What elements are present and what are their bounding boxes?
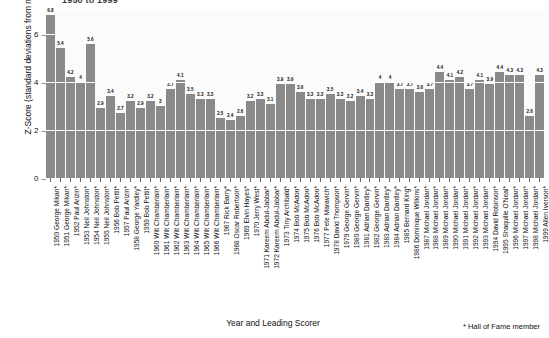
bar[interactable] [286, 84, 295, 178]
bar-item[interactable]: 3.2 [126, 10, 135, 178]
bar-item[interactable]: 2.9 [96, 10, 105, 178]
bar-item[interactable]: 3.7 [395, 10, 404, 178]
bar-item[interactable]: 2.6 [236, 10, 245, 178]
bar-item[interactable]: 3.3 [316, 10, 325, 178]
bar-item[interactable]: 3.4 [106, 10, 115, 178]
bar-item[interactable]: 4 [76, 10, 85, 178]
bar-item[interactable]: 3.3 [196, 10, 205, 178]
bar-item[interactable]: 3.3 [306, 10, 315, 178]
bar[interactable] [455, 77, 464, 178]
bar-item[interactable]: 4.1 [475, 10, 484, 178]
bar[interactable] [535, 75, 544, 178]
bar-item[interactable]: 2.7 [116, 10, 125, 178]
bar-item[interactable]: 4.4 [495, 10, 504, 178]
bar-item[interactable]: 5.6 [86, 10, 95, 178]
bar-item[interactable]: 3.3 [366, 10, 375, 178]
bar-item[interactable]: 3.3 [256, 10, 265, 178]
bar-item[interactable]: 3.5 [326, 10, 335, 178]
bar[interactable] [256, 99, 265, 178]
bar-item[interactable]: 3.7 [425, 10, 434, 178]
bar-item[interactable]: 4.1 [445, 10, 454, 178]
bar[interactable] [465, 89, 474, 178]
bar[interactable] [96, 108, 105, 178]
bar-item[interactable]: 4 [375, 10, 384, 178]
bar-item[interactable]: 3.5 [186, 10, 195, 178]
bar-item[interactable]: 2.4 [226, 10, 235, 178]
bar[interactable] [56, 48, 65, 178]
bar[interactable] [216, 118, 225, 178]
bar[interactable] [236, 116, 245, 178]
bar[interactable] [296, 92, 305, 178]
bar[interactable] [136, 108, 145, 178]
x-tick-mark [475, 178, 484, 184]
bar[interactable] [86, 44, 95, 178]
bar-item[interactable]: 2.5 [216, 10, 225, 178]
bar-item[interactable]: 2.9 [136, 10, 145, 178]
bar-item[interactable]: 2.6 [525, 10, 534, 178]
bar[interactable] [66, 77, 75, 178]
bar-item[interactable]: 3.6 [296, 10, 305, 178]
bar[interactable] [405, 89, 414, 178]
bar-item[interactable]: 3.3 [336, 10, 345, 178]
bar[interactable] [146, 101, 155, 178]
bar-item[interactable]: 3.9 [485, 10, 494, 178]
bar-item[interactable]: 3 [156, 10, 165, 178]
x-tick-label: 1986 Dominique Wilkins* [405, 186, 414, 298]
bar[interactable] [475, 80, 484, 178]
bar-item[interactable]: 3.9 [286, 10, 295, 178]
bar-item[interactable]: 3.3 [206, 10, 215, 178]
bar[interactable] [515, 75, 524, 178]
bar[interactable] [246, 101, 255, 178]
bar-item[interactable]: 3.2 [346, 10, 355, 178]
bar-item[interactable]: 4.2 [66, 10, 75, 178]
bar[interactable] [395, 89, 404, 178]
bar-item[interactable]: 4.3 [515, 10, 524, 178]
bar[interactable] [366, 99, 375, 178]
bar[interactable] [505, 75, 514, 178]
bar[interactable] [106, 96, 115, 178]
bar[interactable] [266, 104, 275, 178]
bar[interactable] [415, 92, 424, 178]
bar-item[interactable]: 6.8 [46, 10, 55, 178]
bar[interactable] [495, 72, 504, 178]
bar[interactable] [276, 84, 285, 178]
bar[interactable] [166, 89, 175, 178]
bar[interactable] [196, 99, 205, 178]
bar-item[interactable]: 4 [385, 10, 394, 178]
bar[interactable] [126, 101, 135, 178]
bar[interactable] [485, 84, 494, 178]
bar[interactable] [156, 106, 165, 178]
bar-item[interactable]: 4.1 [176, 10, 185, 178]
bar[interactable] [46, 15, 55, 178]
bar-item[interactable]: 3.2 [246, 10, 255, 178]
bar[interactable] [425, 89, 434, 178]
bar[interactable] [176, 80, 185, 178]
bar-item[interactable]: 3.2 [146, 10, 155, 178]
bar-item[interactable]: 4.3 [505, 10, 514, 178]
bar-item[interactable]: 4.4 [435, 10, 444, 178]
bar-item[interactable]: 3.7 [405, 10, 414, 178]
bar[interactable] [336, 99, 345, 178]
bar-item[interactable]: 5.4 [56, 10, 65, 178]
bar[interactable] [306, 99, 315, 178]
bar-item[interactable]: 4.3 [535, 10, 544, 178]
bar[interactable] [356, 96, 365, 178]
bar-item[interactable]: 3.6 [415, 10, 424, 178]
bar[interactable] [445, 80, 454, 178]
bar-item[interactable]: 3.1 [266, 10, 275, 178]
bar-item[interactable]: 3.4 [356, 10, 365, 178]
bar-item[interactable]: 3.9 [276, 10, 285, 178]
bar[interactable] [186, 94, 195, 178]
bar-item[interactable]: 4.2 [455, 10, 464, 178]
bar[interactable] [435, 72, 444, 178]
bar-item[interactable]: 3.7 [465, 10, 474, 178]
bar[interactable] [206, 99, 215, 178]
bar[interactable] [326, 94, 335, 178]
bar[interactable] [316, 99, 325, 178]
bar-item[interactable]: 3.7 [166, 10, 175, 178]
bar[interactable] [525, 116, 534, 178]
bar[interactable] [116, 113, 125, 178]
bar[interactable] [346, 101, 355, 178]
bar-value-label: 4.3 [507, 69, 513, 74]
